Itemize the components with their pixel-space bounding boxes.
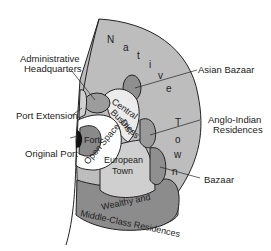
native-letter: a bbox=[123, 42, 129, 53]
anglo-indian-callout: Residences bbox=[213, 124, 263, 135]
original-port-callout: Original Port bbox=[25, 148, 78, 159]
asian-bazaar-callout: Asian Bazaar bbox=[198, 64, 255, 75]
anglo-indian-region bbox=[140, 119, 156, 148]
native-letter: t bbox=[137, 50, 140, 61]
native-letter: v bbox=[158, 70, 163, 81]
bazaar-callout: Bazaar bbox=[204, 174, 234, 185]
colonial-city-diagram: N a t i v e T o w n Central Business Dis… bbox=[0, 0, 271, 251]
european-town-label: Town bbox=[112, 166, 133, 176]
native-letter: N bbox=[107, 34, 114, 45]
port-extension-callout: Port Extension bbox=[16, 110, 78, 121]
european-town-label: European bbox=[104, 155, 143, 165]
admin-hq-region bbox=[84, 93, 110, 113]
native-letter: o bbox=[175, 134, 181, 145]
admin-hq-callout: Headquarters bbox=[24, 63, 82, 74]
native-letter: e bbox=[166, 83, 172, 94]
port-extension-region bbox=[79, 90, 87, 118]
native-letter: i bbox=[149, 59, 151, 70]
native-letter: w bbox=[173, 149, 182, 160]
